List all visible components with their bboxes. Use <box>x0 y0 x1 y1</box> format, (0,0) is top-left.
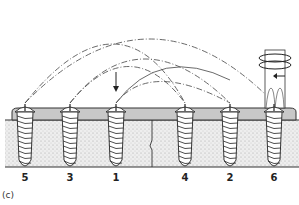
screw-order-label: 2 <box>227 172 234 183</box>
diagram-canvas: 531426 (c) <box>0 0 299 205</box>
screw-order-label: 4 <box>182 172 189 183</box>
arrow-down-icon <box>113 72 119 92</box>
diagram-svg <box>0 0 299 205</box>
panel-label: (c) <box>2 190 14 200</box>
sequence-arcs <box>25 39 274 103</box>
screw-order-label: 1 <box>113 172 120 183</box>
screw-order-label: 3 <box>67 172 74 183</box>
screw-order-label: 6 <box>271 172 278 183</box>
bone-plate <box>12 108 296 120</box>
screwdriver-icon <box>259 50 291 108</box>
screw-order-label: 5 <box>22 172 29 183</box>
